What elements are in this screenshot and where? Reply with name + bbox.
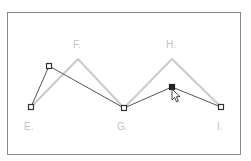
anchor-point-i[interactable] xyxy=(219,105,224,110)
label-i: I. xyxy=(217,121,223,132)
path-canvas[interactable]: F. H. E. G. I. xyxy=(0,0,251,161)
guide-path xyxy=(31,59,221,108)
anchor-point-f-moved[interactable] xyxy=(47,64,52,69)
label-f: F. xyxy=(73,39,81,50)
cursor-arrow-icon xyxy=(172,89,180,102)
anchor-point-e[interactable] xyxy=(29,105,34,110)
anchor-point-g[interactable] xyxy=(122,106,127,111)
label-e: E. xyxy=(24,121,33,132)
label-h: H. xyxy=(166,39,176,50)
label-g: G. xyxy=(117,121,128,132)
edited-path[interactable] xyxy=(31,66,221,108)
